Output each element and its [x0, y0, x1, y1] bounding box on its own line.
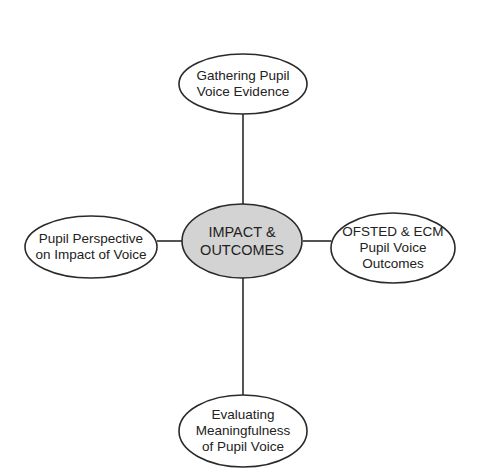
node-top-label: Gathering Pupil Voice Evidence — [179, 54, 307, 114]
center-node-label: IMPACT & OUTCOMES — [182, 204, 302, 278]
node-left-label: Pupil Perspective on Impact of Voice — [25, 216, 157, 278]
node-right-label: OFSTED & ECM Pupil Voice Outcomes — [331, 213, 455, 283]
node-bottom-label: Evaluating Meaningfulness of Pupil Voice — [179, 395, 307, 467]
